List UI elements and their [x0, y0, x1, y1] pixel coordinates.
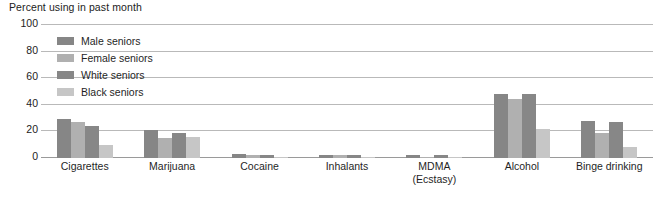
legend-swatch-icon [57, 71, 74, 79]
bar-group [406, 25, 462, 158]
x-axis-label-line1: MDMA [418, 160, 450, 172]
x-axis-category-label: Cocaine [216, 160, 303, 173]
legend-swatch-icon [57, 88, 74, 96]
bar [99, 145, 113, 158]
legend-swatch-icon [57, 37, 74, 45]
bar [536, 129, 550, 158]
x-axis-category-label: Marijuana [128, 160, 215, 173]
bar-group [232, 25, 288, 158]
legend-item-label: Male seniors [81, 35, 141, 47]
x-axis-label-line1: Inhalants [326, 160, 369, 172]
x-axis-labels: CigarettesMarijuanaCocaineInhalantsMDMA(… [41, 160, 653, 200]
legend-item-label: White seniors [81, 69, 145, 81]
bar [333, 155, 347, 158]
x-axis-label-line1: Alcohol [505, 160, 539, 172]
legend-swatch-icon [57, 54, 74, 62]
x-axis-category-label: Inhalants [303, 160, 390, 173]
bar [434, 155, 448, 158]
bar [494, 94, 508, 158]
bar [85, 126, 99, 158]
y-axis-tick-label: 20 [8, 124, 38, 135]
x-axis-category-label: Alcohol [478, 160, 565, 173]
bar-group [494, 25, 550, 158]
bar [186, 137, 200, 158]
bar [361, 157, 375, 158]
bar [158, 138, 172, 158]
bar [448, 157, 462, 158]
x-axis-category-label: Binge drinking [566, 160, 653, 173]
x-axis-label-line2: (Ecstasy) [391, 173, 478, 186]
x-axis-label-line1: Binge drinking [576, 160, 643, 172]
bar [420, 157, 434, 158]
legend-item: Female seniors [57, 50, 197, 65]
bar-group [581, 25, 637, 158]
bar [508, 99, 522, 158]
y-axis-tick-label: 60 [8, 71, 38, 82]
y-axis-tick-label: 100 [8, 18, 38, 29]
y-axis-tick-label: 40 [8, 98, 38, 109]
bar [172, 133, 186, 158]
bar [522, 94, 536, 158]
bar [232, 154, 246, 158]
legend-item: White seniors [57, 67, 197, 82]
legend-item-label: Black seniors [81, 86, 143, 98]
bar [581, 121, 595, 158]
bar [595, 133, 609, 158]
x-axis-label-line1: Cocaine [240, 160, 279, 172]
bar [57, 119, 71, 158]
x-axis-label-line1: Marijuana [149, 160, 195, 172]
bar [319, 155, 333, 158]
bar [260, 155, 274, 158]
chart-legend: Male seniorsFemale seniorsWhite seniorsB… [57, 33, 197, 101]
bar [406, 155, 420, 158]
chart-title: Percent using in past month [9, 1, 142, 14]
x-axis-category-label: Cigarettes [41, 160, 128, 173]
y-axis-tick-label: 0 [8, 151, 38, 162]
x-axis-category-label: MDMA(Ecstasy) [391, 160, 478, 186]
bar [144, 130, 158, 158]
bar [609, 122, 623, 158]
bar [274, 157, 288, 158]
legend-item: Black seniors [57, 84, 197, 99]
y-axis: 020406080100 [0, 24, 38, 164]
bar [623, 147, 637, 158]
bar [246, 155, 260, 158]
legend-item-label: Female seniors [81, 52, 153, 64]
y-axis-tick-label: 80 [8, 45, 38, 56]
bar [71, 122, 85, 158]
bar-group [319, 25, 375, 158]
legend-item: Male seniors [57, 33, 197, 48]
bar-chart: Percent using in past month 020406080100… [0, 0, 658, 203]
bar [347, 155, 361, 158]
x-axis-label-line1: Cigarettes [61, 160, 109, 172]
